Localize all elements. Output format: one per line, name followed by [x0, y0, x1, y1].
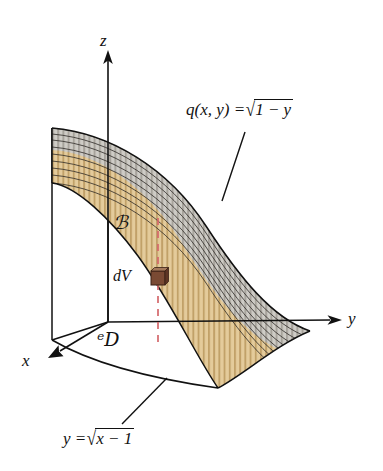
- equation-boundary-radical: √x − 1: [86, 427, 134, 447]
- axis-label-x: x: [22, 352, 30, 369]
- label-domain-region-D: ᵉD: [97, 330, 120, 349]
- leader-line-surface: [222, 132, 245, 201]
- label-solid-region-B: ℬ: [113, 213, 128, 232]
- axis-label-y: y: [348, 310, 356, 327]
- axis-label-z: z: [100, 32, 107, 49]
- equation-surface-radical: √1 − y: [245, 98, 293, 118]
- equation-boundary-radicand: x − 1: [95, 428, 134, 447]
- leader-line-boundary: [122, 378, 167, 424]
- label-volume-element-dV: dV: [113, 268, 131, 284]
- equation-surface: q(x, y) =√1 − y: [186, 98, 293, 118]
- dv-cube: [151, 268, 169, 286]
- radical-sign-icon: √: [87, 428, 96, 448]
- equation-boundary-curve: y =√x − 1: [63, 427, 134, 447]
- equation-boundary-lhs: y =: [63, 429, 86, 448]
- radical-sign-icon: √: [246, 99, 255, 119]
- equation-surface-lhs: q(x, y) =: [186, 100, 245, 119]
- solid-region-diagram: [0, 0, 383, 471]
- equation-surface-radicand: 1 − y: [254, 99, 293, 118]
